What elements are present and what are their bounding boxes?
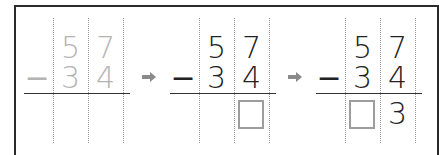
subtrahend-tens: 3 <box>53 63 88 93</box>
minus-sign: − <box>168 63 198 93</box>
guide-line <box>123 18 124 143</box>
subtrahend-tens: 3 <box>345 63 380 93</box>
minus-sign: − <box>314 63 344 93</box>
minuend-tens: 5 <box>53 33 88 63</box>
subtrahend-ones: 4 <box>88 63 123 93</box>
guide-line <box>269 18 270 143</box>
guide-line <box>415 18 416 143</box>
step-2-panel: 5 7 − 3 4 <box>146 0 276 143</box>
minuend-ones: 7 <box>380 33 415 63</box>
step-3-panel: 5 7 − 3 4 3 <box>292 0 422 143</box>
minuend-ones: 7 <box>88 33 123 63</box>
answer-box-tens[interactable] <box>349 100 375 129</box>
answer-box-ones[interactable] <box>238 100 264 129</box>
subtrahend-ones: 4 <box>380 63 415 93</box>
minuend-ones: 7 <box>234 33 269 63</box>
step-1-panel: 5 7 − 3 4 <box>0 0 130 143</box>
subtrahend-ones: 4 <box>234 63 269 93</box>
result-ones: 3 <box>380 99 415 129</box>
subtrahend-tens: 3 <box>199 63 234 93</box>
minuend-tens: 5 <box>199 33 234 63</box>
minus-sign: − <box>22 63 52 93</box>
minuend-tens: 5 <box>345 33 380 63</box>
